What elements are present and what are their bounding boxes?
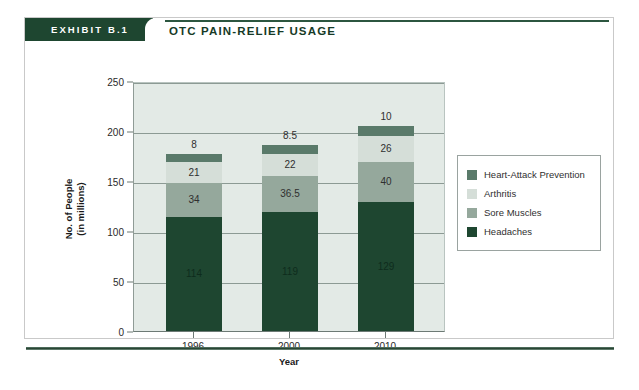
bar-segment-value: 129: [378, 262, 395, 272]
bar-stack[interactable]: 11936.5228.5: [262, 145, 318, 331]
legend-label: Arthritis: [484, 188, 516, 199]
bar-segment[interactable]: 26: [358, 136, 414, 162]
bar-segment[interactable]: 10: [358, 126, 414, 136]
legend-swatch: [467, 227, 477, 237]
y-tick-mark: [127, 182, 133, 183]
plot-area: 1143421811936.5228.5129402610: [133, 82, 445, 332]
bar-segment[interactable]: 36.5: [262, 176, 318, 213]
legend-swatch: [467, 189, 477, 199]
bar-segment-value: 114: [186, 269, 202, 279]
legend-item[interactable]: Heart-Attack Prevention: [467, 165, 592, 184]
x-axis-title: Year: [133, 356, 445, 367]
bar-stack[interactable]: 129402610: [358, 126, 414, 331]
y-tick-label: 150: [107, 177, 124, 188]
y-tick-label: 100: [107, 227, 124, 238]
exhibit-title: OTC PAIN-RELIEF USAGE: [169, 20, 336, 41]
chart-legend: Heart-Attack PreventionArthritisSore Mus…: [457, 155, 601, 251]
y-tick-label: 250: [107, 77, 124, 88]
legend-item[interactable]: Arthritis: [467, 184, 592, 203]
bar-segment[interactable]: 119: [262, 212, 318, 331]
y-axis-title: (in millions) No. of People: [20, 197, 130, 221]
y-tick-mark: [127, 332, 133, 333]
gridline: [134, 83, 444, 84]
exhibit-tab-label: EXHIBIT B.1: [51, 24, 129, 35]
y-axis-title-line-2: (in millions): [75, 182, 87, 235]
bar-stack[interactable]: 11434218: [166, 154, 222, 331]
y-tick-mark: [127, 132, 133, 133]
bar-segment-value: 40: [380, 177, 391, 187]
bar-segment-value: 22: [284, 160, 295, 170]
bar-segment[interactable]: 40: [358, 162, 414, 202]
y-tick-label: 200: [107, 127, 124, 138]
x-tick-mark: [193, 332, 194, 338]
bar-segment[interactable]: 129: [358, 202, 414, 331]
bar-segment-value: 119: [282, 267, 298, 277]
legend-swatch: [467, 170, 477, 180]
bar-segment-value: 36.5: [280, 189, 299, 199]
y-tick-label: 50: [113, 277, 124, 288]
bar-segment-value: 21: [188, 168, 199, 178]
bar-segment-value: 26: [380, 144, 391, 154]
legend-label: Heart-Attack Prevention: [484, 169, 585, 180]
exhibit-tab: EXHIBIT B.1: [25, 18, 153, 41]
exhibit-tab-notch: [145, 18, 165, 41]
y-tick-label: 0: [118, 327, 124, 338]
bar-segment[interactable]: 34: [166, 183, 222, 217]
bottom-rule: [26, 347, 614, 350]
bar-segment[interactable]: 21: [166, 162, 222, 183]
bar-segment-value: 34: [188, 195, 199, 205]
exhibit-card: EXHIBIT B.1 OTC PAIN-RELIEF USAGE (in mi…: [24, 17, 614, 339]
bar-segment[interactable]: 8.5: [262, 145, 318, 154]
y-tick-mark: [127, 232, 133, 233]
bar-segment-value: 8: [166, 140, 222, 150]
bar-segment[interactable]: 8: [166, 154, 222, 162]
legend-swatch: [467, 208, 477, 218]
legend-item[interactable]: Headaches: [467, 222, 592, 241]
y-axis-title-line-1: No. of People: [63, 179, 75, 240]
plot-wrap: 1143421811936.5228.5129402610 0501001502…: [133, 82, 445, 332]
bar-segment-value: 10: [358, 112, 414, 122]
y-tick-mark: [127, 82, 133, 83]
bar-segment[interactable]: 22: [262, 154, 318, 176]
legend-label: Headaches: [484, 226, 532, 237]
bar-segment[interactable]: 114: [166, 217, 222, 331]
chart-region: (in millions) No. of People 114342181193…: [25, 42, 613, 338]
legend-item[interactable]: Sore Muscles: [467, 203, 592, 222]
x-tick-mark: [385, 332, 386, 338]
y-tick-mark: [127, 282, 133, 283]
legend-label: Sore Muscles: [484, 207, 542, 218]
x-tick-mark: [289, 332, 290, 338]
